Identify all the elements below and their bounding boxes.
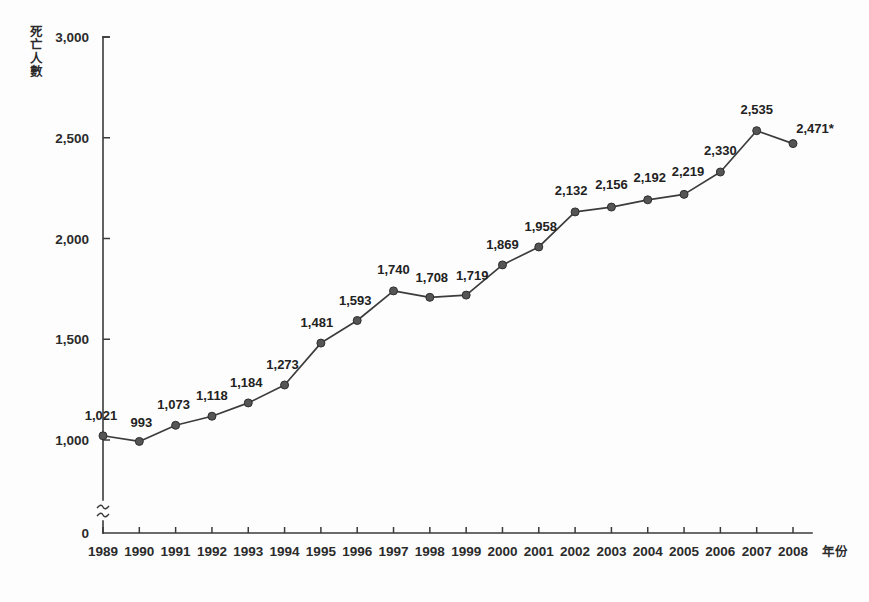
- x-tick-label: 2004: [633, 544, 664, 559]
- x-tick-label: 2001: [524, 544, 555, 559]
- data-point-marker: [753, 127, 761, 135]
- axis-break-icon: [97, 505, 109, 517]
- x-tick-label: 2005: [669, 544, 700, 559]
- line-chart: 1,0001,5002,0002,5003,000 19891990199119…: [0, 0, 869, 602]
- x-tick-label: 1989: [88, 544, 118, 559]
- x-tick-label: 1997: [379, 544, 409, 559]
- y-tick-label: 1,500: [55, 332, 89, 347]
- data-point-label: 1,118: [196, 388, 228, 403]
- data-point-label: 1,481: [301, 315, 334, 330]
- data-point-label: 2,330: [704, 143, 737, 158]
- y-tick-label: 3,000: [55, 30, 89, 45]
- data-point-label: 1,593: [339, 293, 372, 308]
- y-axis-zero-label: 0: [81, 526, 89, 541]
- data-point-marker: [462, 291, 470, 299]
- data-point-marker: [426, 293, 434, 301]
- data-point-marker: [680, 190, 688, 198]
- x-tick-label: 1994: [270, 544, 301, 559]
- data-point-label: 2,132: [555, 183, 588, 198]
- y-tick-label: 1,000: [55, 433, 89, 448]
- data-point-label: 1,958: [525, 219, 558, 234]
- x-tick-label: 1992: [197, 544, 227, 559]
- data-point-marker: [789, 140, 797, 148]
- x-axis-ticks: 1989199019911992199319941995199619971998…: [88, 527, 809, 559]
- x-tick-label: 1996: [342, 544, 373, 559]
- data-point-marker: [317, 339, 325, 347]
- data-point-marker: [607, 203, 615, 211]
- chart-container: 死 亡 人 數 1,0001,5002,0002,5003,000 198919…: [0, 0, 869, 602]
- data-point-label: 1,021: [85, 408, 118, 423]
- x-tick-label: 1993: [233, 544, 264, 559]
- y-tick-label: 2,000: [55, 232, 89, 247]
- data-point-label: 1,073: [157, 397, 190, 412]
- data-point-label: 1,708: [416, 270, 449, 285]
- data-point-label: 2,471*: [796, 121, 835, 136]
- data-point-marker: [172, 421, 180, 429]
- data-point-marker: [208, 412, 216, 420]
- x-tick-label: 1991: [161, 544, 192, 559]
- data-point-marker: [571, 208, 579, 216]
- x-tick-label: 2007: [742, 544, 772, 559]
- series-point-labels: 1,0219931,0731,1181,1841,2731,4811,5931,…: [85, 102, 835, 431]
- x-tick-label: 2002: [560, 544, 590, 559]
- x-axis-title: 年份: [822, 544, 848, 559]
- x-tick-label: 1999: [451, 544, 481, 559]
- data-point-label: 2,219: [672, 164, 705, 179]
- data-point-marker: [353, 317, 361, 325]
- data-point-label: 1,273: [266, 357, 299, 372]
- data-point-marker: [244, 399, 252, 407]
- data-point-marker: [498, 261, 506, 269]
- data-point-label: 1,869: [486, 237, 519, 252]
- x-tick-label: 2006: [705, 544, 736, 559]
- data-point-marker: [390, 287, 398, 295]
- data-point-label: 1,184: [230, 375, 263, 390]
- data-point-label: 993: [130, 415, 152, 430]
- y-tick-label: 2,500: [55, 131, 89, 146]
- data-point-marker: [535, 243, 543, 251]
- x-tick-label: 1990: [124, 544, 154, 559]
- data-point-label: 2,535: [740, 102, 773, 117]
- x-tick-label: 2003: [596, 544, 627, 559]
- x-tick-label: 2008: [778, 544, 809, 559]
- data-point-label: 1,719: [456, 268, 489, 283]
- x-tick-label: 2000: [487, 544, 517, 559]
- x-tick-label: 1998: [415, 544, 446, 559]
- y-axis-ticks: 1,0001,5002,0002,5003,000: [55, 30, 110, 448]
- data-point-label: 1,740: [377, 262, 410, 277]
- data-point-marker: [281, 381, 289, 389]
- data-point-label: 2,156: [595, 177, 628, 192]
- data-point-marker: [135, 437, 143, 445]
- data-point-marker: [99, 432, 107, 440]
- data-point-marker: [716, 168, 724, 176]
- data-point-label: 2,192: [633, 170, 666, 185]
- data-point-marker: [644, 196, 652, 204]
- x-tick-label: 1995: [306, 544, 337, 559]
